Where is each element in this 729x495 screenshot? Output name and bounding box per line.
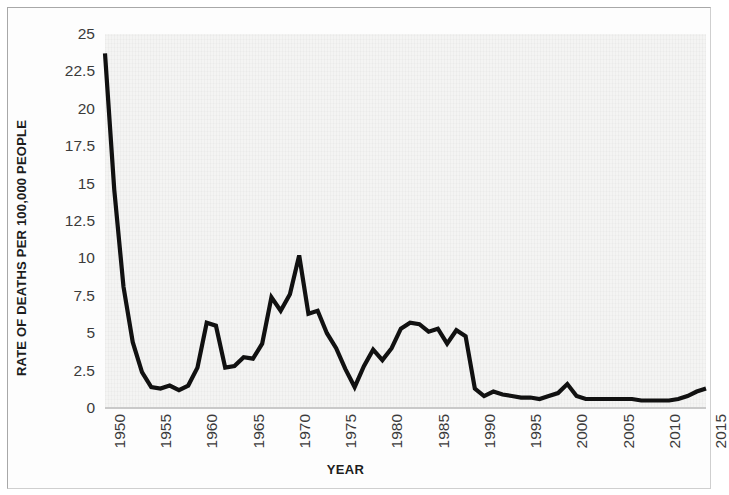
x-tick-label: 2015 xyxy=(713,414,729,448)
x-tick-label: 1980 xyxy=(389,414,405,448)
x-tick-label: 1975 xyxy=(343,414,359,448)
x-tick-label: 1970 xyxy=(297,414,313,448)
y-axis-title: RATE OF DEATHS PER 100,000 PEOPLE xyxy=(14,119,29,375)
x-tick-label: 1990 xyxy=(482,414,498,448)
x-tick-label: 1950 xyxy=(112,414,128,448)
x-axis-title: YEAR xyxy=(0,462,719,477)
x-tick-label: 2000 xyxy=(574,414,590,448)
x-tick-label: 1955 xyxy=(158,414,174,448)
x-tick-label: 2010 xyxy=(667,414,683,448)
x-tick-label: 1985 xyxy=(436,414,452,448)
x-tick-label: 1960 xyxy=(204,414,220,448)
x-tick-label: 2005 xyxy=(621,414,637,448)
x-tick-label: 1965 xyxy=(251,414,267,448)
x-tick-label: 1995 xyxy=(528,414,544,448)
